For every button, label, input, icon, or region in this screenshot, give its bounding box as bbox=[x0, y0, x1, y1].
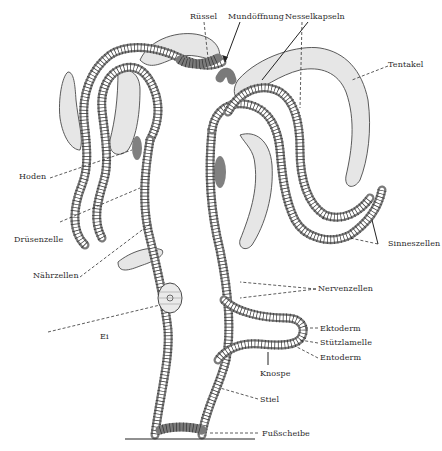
label-knospe: Knospe bbox=[260, 370, 291, 378]
label-stiel: Stiel bbox=[260, 396, 279, 404]
label-hoden: Hoden bbox=[19, 173, 46, 181]
label-tentakel: Tentakel bbox=[388, 61, 424, 69]
label-stuetzlamelle: Stützlamelle bbox=[320, 339, 372, 347]
label-nesselkapseln: Nesselkapseln bbox=[285, 13, 345, 21]
hydra-diagram bbox=[0, 0, 442, 451]
egg bbox=[158, 283, 182, 313]
label-ektoderm: Ektoderm bbox=[320, 325, 361, 333]
label-sinneszellen: Sinneszellen bbox=[388, 240, 440, 248]
label-ei: Ei bbox=[100, 333, 109, 341]
label-entoderm: Entoderm bbox=[320, 354, 361, 362]
label-mundoeffnung: Mundöffnung bbox=[228, 13, 284, 21]
label-fussscheibe: Fußscheibe bbox=[262, 430, 310, 438]
label-naehrzellen: Nährzellen bbox=[33, 272, 79, 280]
label-ruessel: Rüssel bbox=[190, 13, 217, 21]
label-nervenzellen: Nervenzellen bbox=[318, 285, 373, 293]
label-druesenzelle: Drüsenzelle bbox=[14, 236, 63, 244]
